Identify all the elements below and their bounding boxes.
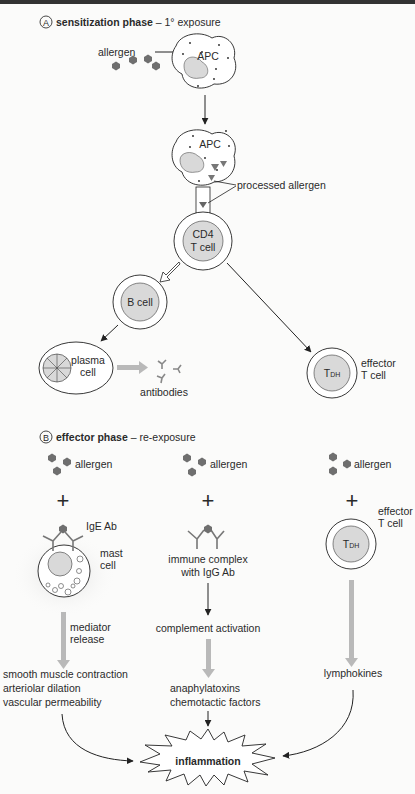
pointer-line-2 xyxy=(208,186,236,203)
plasma-cell: plasma cell xyxy=(39,342,113,394)
hollow-arrow-to-bcell xyxy=(160,262,180,282)
lymphokines-label: lymphokines xyxy=(324,667,382,679)
allergen-label-b3: allergen xyxy=(354,458,392,470)
plasma-label-2: cell xyxy=(80,366,96,378)
apc2-label: APC xyxy=(199,138,221,150)
complex-label-2: with IgG Ab xyxy=(180,566,235,578)
effector-t-cell-b: TDH xyxy=(326,519,376,569)
allergen-group-b1 xyxy=(48,454,71,476)
effector-label-a-1: effector xyxy=(361,357,396,369)
effector-label-b-2: T cell xyxy=(378,517,403,529)
arrow-col3-to-inflammation xyxy=(283,690,353,756)
marker-a: A xyxy=(43,18,49,28)
allergen-label-a: allergen xyxy=(98,46,136,58)
synapse-connector xyxy=(196,187,210,213)
cd4-label-2: T cell xyxy=(191,241,216,253)
section-b-title: effector phase – re-exposure xyxy=(56,431,196,443)
effector-t-cell-a: TDH xyxy=(307,348,357,398)
effect-smooth-muscle: smooth muscle contraction xyxy=(3,668,128,680)
effector-label-b-1: effector xyxy=(378,505,413,517)
apc-label: APC xyxy=(197,50,219,62)
mediator-label-1: mediator xyxy=(70,621,111,633)
allergen-hexagon-icon xyxy=(144,55,152,64)
effect-anaphylatoxins: anaphylatoxins xyxy=(170,682,240,694)
mediator-label-2: release xyxy=(70,633,105,645)
processed-allergen-label: processed allergen xyxy=(237,179,326,191)
bcell-label: B cell xyxy=(127,296,153,308)
effect-vascular-permeability: vascular permeability xyxy=(3,696,102,708)
igg-immune-complex-icon xyxy=(188,530,224,549)
gray-arrow-complement xyxy=(202,639,215,678)
pointer-line-1 xyxy=(214,181,236,185)
gray-arrow-lymphokines xyxy=(345,580,358,667)
antibodies-icon xyxy=(157,360,181,383)
plasma-label-1: plasma xyxy=(71,354,105,366)
allergen-hexagon-icon xyxy=(152,62,160,71)
cd4-t-cell: CD4 T cell xyxy=(174,212,232,270)
section-a-title: sensitization phase – 1° exposure xyxy=(56,16,221,28)
apc-cell-1: APC xyxy=(172,34,236,88)
complement-label: complement activation xyxy=(156,622,261,634)
allergen-label-b2: allergen xyxy=(210,458,248,470)
complex-label-1: immune complex xyxy=(168,553,248,565)
arrow-cd4-to-tdh xyxy=(227,263,311,352)
ige-label: IgE Ab xyxy=(86,520,117,532)
plus-sign-b3: + xyxy=(346,488,359,513)
b-cell: B cell xyxy=(113,275,167,329)
effector-label-a-2: T cell xyxy=(361,369,386,381)
section-b-header: B effector phase – re-exposure xyxy=(40,431,196,443)
mast-label-2: cell xyxy=(100,559,116,571)
plus-sign-b2: + xyxy=(202,488,215,513)
cd4-label-1: CD4 xyxy=(192,228,213,240)
gray-arrow-antibodies xyxy=(117,361,148,374)
plus-sign-b1: + xyxy=(57,488,70,513)
inflammation-burst: inflammation xyxy=(140,729,275,786)
mast-label-1: mast xyxy=(100,547,123,559)
marker-b: B xyxy=(43,433,49,443)
effect-arteriolar-dilation: arteriolar dilation xyxy=(3,682,81,694)
antibodies-label: antibodies xyxy=(140,386,188,398)
section-a-header: A sensitization phase – 1° exposure xyxy=(40,16,221,28)
apc-cell-2: APC xyxy=(172,130,235,185)
allergen-hexagon-icon xyxy=(112,62,120,71)
allergen-group-b3 xyxy=(329,453,351,476)
allergen-in-complex xyxy=(204,525,212,534)
allergen-label-b1: allergen xyxy=(75,458,113,470)
inflammation-label: inflammation xyxy=(175,755,240,767)
mast-nucleus xyxy=(48,552,72,576)
arrow-col1-to-inflammation xyxy=(62,714,133,761)
hypersensitivity-diagram: A sensitization phase – 1° exposure alle… xyxy=(0,0,415,794)
effect-chemotactic-factors: chemotactic factors xyxy=(170,696,260,708)
gray-arrow-mediator xyxy=(57,612,70,669)
arrow-bcell-to-plasma xyxy=(101,325,118,341)
allergen-group-b2 xyxy=(183,454,206,477)
